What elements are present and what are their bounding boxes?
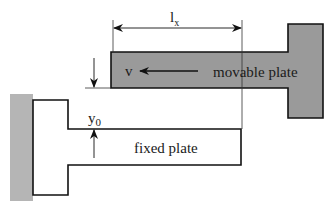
velocity-label: v [125, 63, 133, 79]
fixed-plate-label: fixed plate [134, 140, 198, 156]
overlap-length-label: lx [170, 9, 179, 28]
movable-plate-label: movable plate [213, 64, 298, 80]
plate-diagram: lx v movable plate y0 fixed plate [0, 0, 331, 204]
gap-label: y0 [88, 110, 102, 128]
fixed-wall [10, 94, 33, 201]
